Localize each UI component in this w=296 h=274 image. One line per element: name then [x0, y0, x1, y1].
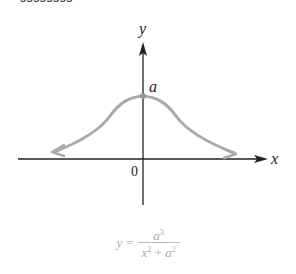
- y-axis-label: y: [137, 20, 147, 38]
- equation-equals: =: [126, 235, 133, 251]
- denominator-a-exponent: 2: [172, 245, 176, 254]
- equation-lhs: y: [116, 235, 122, 251]
- origin-label: 0: [131, 164, 138, 179]
- fraction-denominator: x2 + a2: [142, 243, 176, 260]
- x-axis-label: x: [270, 150, 278, 167]
- denominator-plus: +: [155, 246, 162, 261]
- fraction-numerator: a3: [151, 226, 166, 242]
- denominator-x-exponent: 2: [147, 245, 151, 254]
- numerator-exponent: 3: [160, 228, 164, 237]
- peak-label: a: [149, 78, 157, 95]
- curve: [54, 96, 234, 153]
- equation: y = a3 x2 + a2: [0, 226, 296, 261]
- peak-point: [140, 93, 146, 99]
- fraction: a3 x2 + a2: [138, 226, 180, 261]
